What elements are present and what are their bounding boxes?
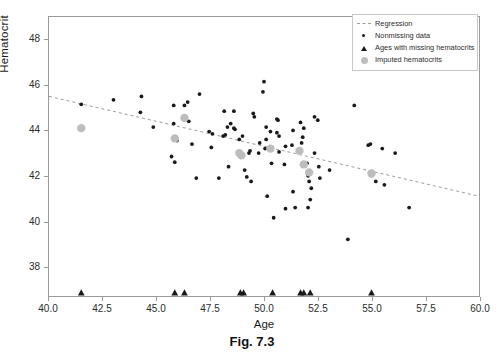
y-tick-label: 38: [10, 261, 40, 272]
x-tick-mark: [210, 297, 211, 301]
scatter-points-layer: [79, 80, 411, 241]
legend-item-regression: Regression: [357, 18, 473, 29]
figure-container: 38404244464840.042.545.047.550.052.555.0…: [0, 0, 504, 358]
x-tick-mark: [480, 297, 481, 301]
missing-age-markers-layer: [78, 289, 375, 295]
x-axis-title: Age: [48, 318, 480, 330]
x-tick-label: 52.5: [298, 303, 338, 314]
y-tick-mark: [44, 222, 48, 223]
y-tick-mark: [44, 267, 48, 268]
x-tick-mark: [372, 297, 373, 301]
legend-label: Regression: [375, 19, 412, 29]
x-tick-label: 45.0: [136, 303, 176, 314]
triangle-marker-icon: [357, 43, 371, 53]
x-tick-label: 55.0: [352, 303, 392, 314]
legend-label: Imputed hematocrits: [375, 55, 442, 65]
y-tick-mark: [44, 176, 48, 177]
imputed-points-layer: [77, 114, 376, 178]
x-tick-mark: [426, 297, 427, 301]
y-tick-label: 42: [10, 170, 40, 181]
legend-item-nonmissing: Nonmissing data: [357, 30, 473, 41]
x-tick-label: 50.0: [244, 303, 284, 314]
x-tick-mark: [264, 297, 265, 301]
y-tick-label: 48: [10, 33, 40, 44]
x-tick-mark: [318, 297, 319, 301]
x-tick-label: 57.5: [406, 303, 446, 314]
x-tick-label: 60.0: [460, 303, 500, 314]
x-tick-mark: [48, 297, 49, 301]
legend: Regression Nonmissing data Ages with mis…: [352, 14, 478, 71]
y-tick-mark: [44, 39, 48, 40]
y-tick-mark: [44, 85, 48, 86]
x-tick-label: 42.5: [82, 303, 122, 314]
y-axis-title: Hematocrit: [0, 0, 10, 104]
regression-line: [49, 96, 479, 196]
x-tick-label: 40.0: [28, 303, 68, 314]
x-tick-mark: [102, 297, 103, 301]
y-tick-mark: [44, 130, 48, 131]
legend-label: Nonmissing data: [375, 31, 430, 41]
legend-item-imputed: Imputed hematocrits: [357, 54, 473, 65]
y-tick-label: 44: [10, 124, 40, 135]
legend-item-missing-ages: Ages with missing hematocrits: [357, 42, 473, 53]
x-tick-label: 47.5: [190, 303, 230, 314]
x-tick-mark: [156, 297, 157, 301]
legend-label: Ages with missing hematocrits: [375, 43, 474, 53]
dot-marker-icon: [357, 31, 371, 41]
y-tick-label: 46: [10, 79, 40, 90]
y-tick-label: 40: [10, 216, 40, 227]
circle-marker-icon: [357, 55, 371, 65]
figure-caption: Fig. 7.3: [0, 334, 504, 349]
dashed-line-icon: [357, 19, 371, 29]
